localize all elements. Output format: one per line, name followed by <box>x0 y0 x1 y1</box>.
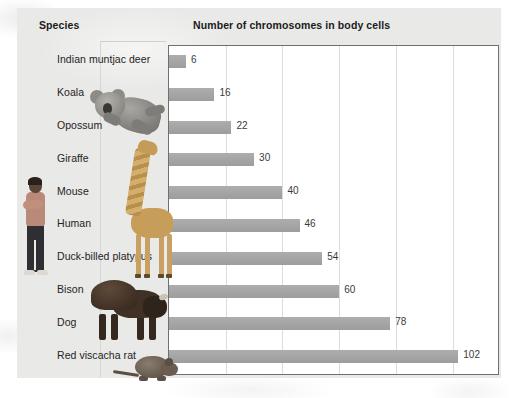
bar-giraffe <box>169 153 254 166</box>
bar-mouse <box>169 186 282 199</box>
bar-value-label: 40 <box>287 185 298 196</box>
bar-row: 22 <box>169 121 498 134</box>
species-label-mouse: Mouse <box>57 185 89 197</box>
species-label-indian-muntjac-deer: Indian muntjac deer <box>57 53 150 65</box>
bar-value-label: 54 <box>327 251 338 262</box>
bar-value-label: 102 <box>463 349 480 360</box>
bar-row: 54 <box>169 252 498 265</box>
bar-row: 40 <box>169 186 498 199</box>
table-header-row: Species Number of chromosomes in body ce… <box>17 8 501 44</box>
bar-bison <box>169 285 339 298</box>
bar-value-label: 16 <box>219 87 230 98</box>
bar-chart-plot-area: 61622304046546078102 <box>168 45 499 375</box>
bar-human <box>169 219 300 232</box>
species-label-koala: Koala <box>57 86 84 98</box>
species-label-human: Human <box>57 217 91 229</box>
species-label-duck-billed-platypus: Duck-billed platypus <box>57 250 152 262</box>
species-label-opossum: Opossum <box>57 119 102 131</box>
bar-indian-muntjac-deer <box>169 55 186 68</box>
species-label-column: Indian muntjac deerKoalaOpossumGiraffeMo… <box>17 44 168 378</box>
species-label-red-viscacha-rat: Red viscacha rat <box>57 349 136 361</box>
bar-row: 6 <box>169 55 498 68</box>
bar-value-label: 6 <box>191 54 197 65</box>
bar-row: 16 <box>169 88 498 101</box>
header-divider <box>100 41 166 42</box>
chart-panel: Species Number of chromosomes in body ce… <box>17 8 501 378</box>
column-header-chromosome-count: Number of chromosomes in body cells <box>193 19 390 31</box>
bar-red-viscacha-rat <box>169 350 458 363</box>
bar-dog <box>169 317 390 330</box>
species-label-bison: Bison <box>57 283 84 295</box>
bar-value-label: 30 <box>259 152 270 163</box>
bar-row: 102 <box>169 350 498 363</box>
column-header-species: Species <box>39 19 79 31</box>
bar-row: 46 <box>169 219 498 232</box>
bar-row: 78 <box>169 317 498 330</box>
bar-row: 30 <box>169 153 498 166</box>
bar-duck-billed-platypus <box>169 252 322 265</box>
bar-opossum <box>169 121 231 134</box>
bar-row: 60 <box>169 285 498 298</box>
bar-value-label: 46 <box>305 218 316 229</box>
species-label-dog: Dog <box>57 316 76 328</box>
bar-koala <box>169 88 214 101</box>
bar-value-label: 78 <box>395 316 406 327</box>
bar-value-label: 60 <box>344 284 355 295</box>
species-label-giraffe: Giraffe <box>57 152 89 164</box>
bar-value-label: 22 <box>236 120 247 131</box>
